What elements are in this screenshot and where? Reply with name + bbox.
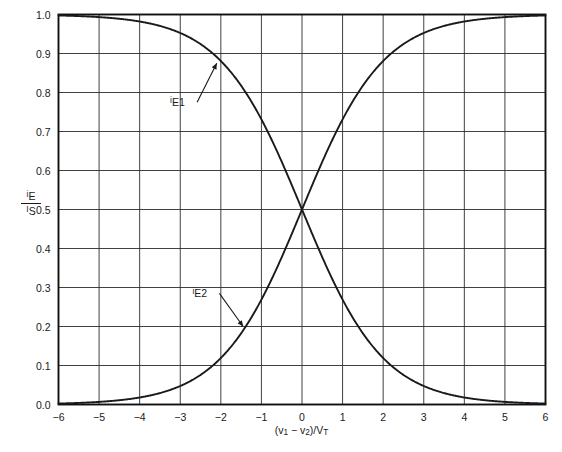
x-tick-label: 4 (452, 411, 476, 423)
y-tick-label: 0.8 (21, 87, 51, 99)
curve-label-ie2: iE2 (192, 286, 207, 299)
y-axis-title-numerator: iE (21, 190, 41, 204)
y-tick-label: 0.4 (21, 243, 51, 255)
x-tick-label: −6 (47, 411, 71, 423)
y-axis-den-base: S (29, 205, 36, 217)
x-tick-label: −3 (168, 411, 192, 423)
x-tick-label: 3 (412, 411, 436, 423)
plot-canvas (0, 0, 562, 452)
x-axis-vt-sub: T (323, 427, 328, 437)
y-axis-num-base: E (28, 190, 35, 202)
x-tick-label: −1 (249, 411, 273, 423)
y-tick-label: 0.1 (21, 360, 51, 372)
y-tick-label: 0.2 (21, 321, 51, 333)
y-tick-label: 0.0 (21, 399, 51, 411)
y-tick-label: 0.6 (21, 165, 51, 177)
x-tick-label: −2 (209, 411, 233, 423)
x-tick-label: 2 (371, 411, 395, 423)
x-axis-minus: − (288, 424, 300, 436)
x-tick-label: 1 (331, 411, 355, 423)
curve-label-ie1: iE1 (170, 95, 185, 108)
x-tick-label: −5 (87, 411, 111, 423)
x-axis-title: (v1 − v2)/VT (58, 424, 545, 437)
y-axis-title-denominator: IS (21, 204, 41, 217)
y-axis-title: iE IS (14, 190, 48, 217)
curve-label-ie1-sub: E1 (172, 97, 185, 109)
y-tick-label: 0.7 (21, 126, 51, 138)
x-tick-label: 6 (534, 411, 558, 423)
y-tick-label: 0.9 (21, 48, 51, 60)
x-tick-label: 5 (493, 411, 517, 423)
curve-label-ie2-sub: E2 (194, 288, 207, 300)
chart-figure: 0.00.10.20.30.40.50.60.70.80.91.0 −6−5−4… (0, 0, 562, 452)
x-tick-label: −4 (128, 411, 152, 423)
x-tick-label: 0 (290, 411, 314, 423)
y-tick-label: 1.0 (21, 9, 51, 21)
y-tick-label: 0.3 (21, 282, 51, 294)
